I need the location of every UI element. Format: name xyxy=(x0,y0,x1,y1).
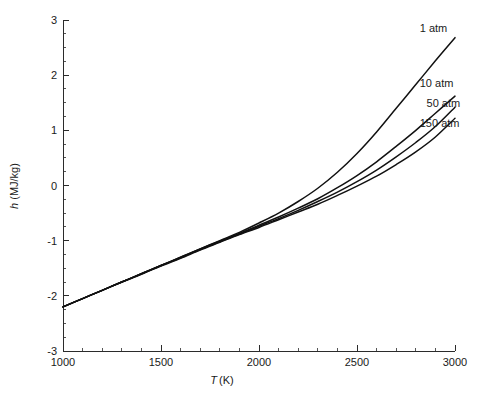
y-tick-label: 3 xyxy=(51,14,57,26)
y-axis-tick-labels: -3-2-10123 xyxy=(47,14,57,357)
y-tick-label: 0 xyxy=(51,180,57,192)
y-tick-label: -2 xyxy=(47,290,57,302)
series-label-50-atm: 50 atm xyxy=(427,97,461,109)
x-tick-label: 2500 xyxy=(345,356,369,368)
x-tick-label: 3000 xyxy=(443,356,467,368)
y-tick-label: 1 xyxy=(51,124,57,136)
x-axis-title-symbol: T xyxy=(210,374,218,386)
series-label-1-atm: 1 atm xyxy=(420,22,448,34)
series-label-150-atm: 150 atm xyxy=(420,117,460,129)
enthalpy-temperature-plot: -3-2-10123 10001500200025003000 1 atm10 … xyxy=(0,0,489,399)
data-curves xyxy=(63,38,455,307)
curve-50-atm xyxy=(63,107,455,307)
x-tick-label: 1000 xyxy=(51,356,75,368)
curve-1-atm xyxy=(63,38,455,307)
curve-10-atm xyxy=(63,96,455,307)
y-axis-title: h(MJ/kg) xyxy=(8,163,20,209)
x-axis-tick-labels: 10001500200025003000 xyxy=(51,356,467,368)
y-axis-title-symbol: h xyxy=(8,203,20,209)
chart-figure: -3-2-10123 10001500200025003000 1 atm10 … xyxy=(0,0,489,399)
y-axis-major-ticks xyxy=(63,20,69,351)
y-tick-label: 2 xyxy=(51,69,57,81)
y-tick-label: -1 xyxy=(47,235,57,247)
y-axis-title-unit: (MJ/kg) xyxy=(8,163,20,200)
x-axis-title: T(K) xyxy=(210,374,233,386)
series-label-10-atm: 10 atm xyxy=(420,77,454,89)
x-axis-title-unit: (K) xyxy=(219,374,234,386)
x-tick-label: 1500 xyxy=(149,356,173,368)
x-tick-label: 2000 xyxy=(247,356,271,368)
